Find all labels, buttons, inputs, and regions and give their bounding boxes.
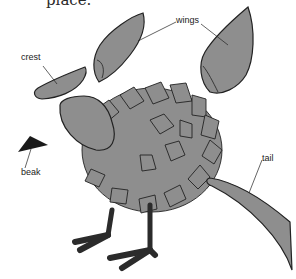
left-wing [94,13,144,82]
label-crest: crest [21,52,41,62]
label-wings: wings [176,15,199,25]
label-beak: beak [21,167,41,177]
beak [18,136,48,152]
right-wing [201,7,253,93]
label-tail: tail [262,153,274,163]
crest [35,67,87,99]
legs [75,205,155,268]
pinecone-bird-diagram [0,0,296,279]
